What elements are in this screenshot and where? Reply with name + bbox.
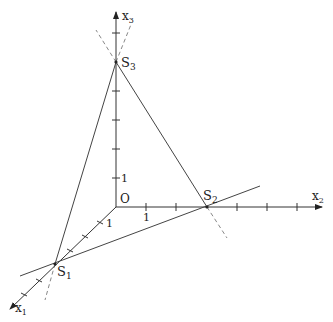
trace-s3-s2 xyxy=(116,62,207,207)
x1-axis-label: x1 xyxy=(15,301,27,317)
origin-label: O xyxy=(120,192,130,206)
dashed-extensions xyxy=(45,22,227,300)
dashed-s3-left xyxy=(96,30,116,62)
x3-axis-label: x3 xyxy=(122,9,134,25)
x2-axis-label: x2 xyxy=(312,189,324,205)
coordinate-diagram: x3 x2 x1 O 1 1 1 S3 S2 S1 xyxy=(0,0,333,322)
ticks xyxy=(21,33,297,296)
x1-unit-label: 1 xyxy=(106,217,113,230)
x2-unit-label: 1 xyxy=(143,211,150,224)
dashed-s2-down xyxy=(207,207,227,238)
s2-label: S2 xyxy=(203,188,218,205)
s3-label: S3 xyxy=(121,55,136,72)
x3-unit-label: 1 xyxy=(121,172,128,185)
trace-s1-s3 xyxy=(55,62,116,264)
trace-s1-s2 xyxy=(20,186,260,276)
s3-point xyxy=(114,60,117,63)
s1-label: S1 xyxy=(57,264,72,281)
dashed-s1-down xyxy=(45,264,55,300)
s2-point xyxy=(205,205,208,208)
plane-traces xyxy=(20,62,260,276)
